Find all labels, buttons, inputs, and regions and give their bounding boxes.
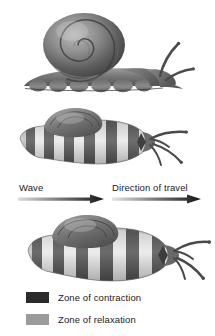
legend-swatch-contraction bbox=[26, 292, 49, 303]
legend-item-relaxation: Zone of relaxation bbox=[26, 312, 136, 327]
figure-root: Wave Direction of travel bbox=[0, 0, 215, 336]
legend-swatch-relaxation bbox=[26, 314, 49, 325]
legend-label-relaxation: Zone of relaxation bbox=[58, 314, 136, 325]
arrows-panel: Wave Direction of travel bbox=[0, 180, 215, 210]
snail-side-view-illustration bbox=[0, 0, 215, 100]
travel-arrow bbox=[112, 194, 201, 206]
snail-top-view-small-illustration bbox=[0, 100, 215, 178]
snail-shell-top-small bbox=[44, 108, 102, 137]
snail-top-view-large-panel bbox=[0, 208, 215, 288]
snail-top-view-small-panel bbox=[0, 100, 215, 178]
wave-arrow bbox=[18, 194, 104, 206]
snail-top-view-large-illustration bbox=[0, 208, 215, 288]
snail-side-view-panel bbox=[0, 0, 215, 100]
snail-shell-top-large bbox=[52, 215, 118, 248]
legend: Zone of contraction Zone of relaxation bbox=[0, 288, 215, 336]
wave-arrow-label: Wave bbox=[19, 182, 43, 193]
legend-item-contraction: Zone of contraction bbox=[26, 290, 141, 305]
legend-label-contraction: Zone of contraction bbox=[58, 292, 141, 303]
travel-arrow-label: Direction of travel bbox=[112, 182, 188, 193]
snail-head-top-small bbox=[137, 130, 188, 165]
